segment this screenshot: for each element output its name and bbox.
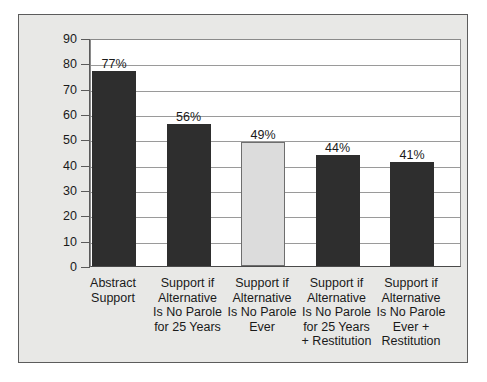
category-label-line: Alternative bbox=[148, 291, 228, 306]
y-axis-tick-mark bbox=[81, 267, 89, 268]
x-axis-category-label: Support ifAlternativeIs No Parolefor 25 … bbox=[297, 276, 377, 349]
category-label-line: Restitution bbox=[371, 334, 451, 349]
bar bbox=[92, 71, 136, 266]
y-axis-tick-label: 0 bbox=[37, 261, 77, 274]
y-axis-tick-label: 70 bbox=[37, 84, 77, 97]
y-axis-tick-label: 80 bbox=[37, 58, 77, 71]
chart-panel: 9080706050403020100 77%56%49%44%41% Abst… bbox=[18, 14, 468, 363]
y-axis-tick-label: 90 bbox=[37, 33, 77, 46]
y-axis-tick-label: 60 bbox=[37, 109, 77, 122]
category-label-line: for 25 Years bbox=[297, 320, 377, 335]
y-axis-tick-mark bbox=[81, 39, 89, 40]
category-label-line: Alternative bbox=[371, 291, 451, 306]
y-axis-tick-mark bbox=[81, 166, 89, 167]
y-axis-tick-mark bbox=[81, 191, 89, 192]
bar bbox=[316, 155, 360, 266]
category-label-line: Alternative bbox=[222, 291, 302, 306]
y-axis-tick-mark bbox=[81, 140, 89, 141]
y-axis-tick-mark bbox=[81, 64, 89, 65]
category-label-line: Ever bbox=[222, 320, 302, 335]
category-label-line: Is No Parole bbox=[297, 305, 377, 320]
category-label-line: Support if bbox=[148, 276, 228, 291]
category-label-line: Support bbox=[73, 291, 153, 306]
bar bbox=[390, 162, 434, 266]
category-label-line: Abstract bbox=[73, 276, 153, 291]
category-label-line: Support if bbox=[222, 276, 302, 291]
bar bbox=[241, 142, 285, 266]
category-label-line: Alternative bbox=[297, 291, 377, 306]
category-label-line: Is No Parole bbox=[371, 305, 451, 320]
y-axis-tick-mark bbox=[81, 216, 89, 217]
chart-figure: 9080706050403020100 77%56%49%44%41% Abst… bbox=[0, 0, 487, 382]
category-label-line: Ever + bbox=[371, 320, 451, 335]
category-label-line: Support if bbox=[297, 276, 377, 291]
y-axis-tick-label: 50 bbox=[37, 134, 77, 147]
plot-area: 77%56%49%44%41% bbox=[90, 39, 461, 267]
bar-value-label: 44% bbox=[302, 142, 374, 155]
x-axis-category-label: Support ifAlternativeIs No ParoleEver bbox=[222, 276, 302, 334]
gridline bbox=[91, 116, 460, 117]
category-label-line: Is No Parole bbox=[222, 305, 302, 320]
category-label-line: for 25 Years bbox=[148, 320, 228, 335]
category-label-line: Support if bbox=[371, 276, 451, 291]
bar-value-label: 41% bbox=[376, 149, 448, 162]
category-label-line: Is No Parole bbox=[148, 305, 228, 320]
y-axis-tick-label: 40 bbox=[37, 160, 77, 173]
y-axis-tick-mark bbox=[81, 115, 89, 116]
y-axis-tick-label: 10 bbox=[37, 236, 77, 249]
y-axis-tick-mark bbox=[81, 242, 89, 243]
x-axis-category-label: Support ifAlternativeIs No Parolefor 25 … bbox=[148, 276, 228, 334]
bar-value-label: 49% bbox=[227, 129, 299, 142]
gridline bbox=[91, 91, 460, 92]
x-axis-category-label: Support ifAlternativeIs No ParoleEver +R… bbox=[371, 276, 451, 349]
y-axis-tick-mark bbox=[81, 90, 89, 91]
bar bbox=[167, 124, 211, 266]
y-axis-labels: 9080706050403020100 bbox=[29, 15, 77, 362]
bar-value-label: 56% bbox=[153, 111, 225, 124]
x-axis-category-label: AbstractSupport bbox=[73, 276, 153, 305]
y-axis-tick-label: 20 bbox=[37, 210, 77, 223]
y-axis-tick-label: 30 bbox=[37, 185, 77, 198]
category-label-line: + Restitution bbox=[297, 334, 377, 349]
